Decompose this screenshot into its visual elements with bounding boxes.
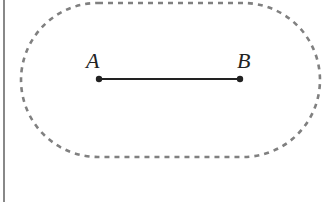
point-b-dot: [237, 76, 243, 82]
point-a-dot: [96, 76, 102, 82]
point-a-label: A: [84, 48, 100, 73]
diagram-canvas: A B: [0, 0, 330, 202]
point-b-label: B: [237, 48, 250, 73]
